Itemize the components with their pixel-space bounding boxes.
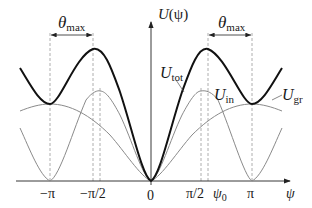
u-gr-leader bbox=[272, 95, 282, 100]
tick-label-half-pi: π/2 bbox=[186, 186, 204, 201]
tick-label-zero: 0 bbox=[147, 188, 154, 203]
y-axis-label: U(ψ) bbox=[158, 6, 188, 23]
tick-label-psi0: ψ0 bbox=[213, 186, 227, 203]
u-gr-label: Ugr bbox=[282, 86, 303, 105]
x-axis-label: ψ bbox=[286, 186, 295, 201]
theta-max-left-label: θmax bbox=[58, 13, 86, 33]
tick-label-neg-half-pi: −π/2 bbox=[80, 186, 106, 201]
tick-label-pi: π bbox=[247, 186, 254, 201]
u-tot-label: Utot bbox=[160, 64, 183, 83]
u-in-label: Uin bbox=[214, 86, 235, 105]
tick-label-neg-pi: −π bbox=[40, 186, 55, 201]
potential-diagram: θmax θmax U(ψ) Utot Uin Ugr −π −π/2 0 π/… bbox=[0, 0, 312, 208]
theta-max-right-label: θmax bbox=[218, 13, 246, 33]
